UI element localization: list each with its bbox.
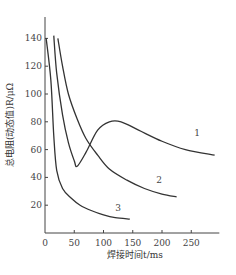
x-tick-label: 100 [95,238,112,248]
x-tick-label: 150 [124,238,141,248]
x-tick-label: 250 [183,238,200,248]
y-tick-label: 120 [25,61,42,71]
y-tick-label: 140 [25,33,42,43]
y-axis-label: 总电阻(动态值)R/μΩ [4,83,15,167]
curve-3 [46,38,130,219]
y-tick-label: 60 [31,145,43,155]
resistance-chart: 05010015020025020406080100120140 123 焊接时… [0,0,236,275]
axis-ticks: 05010015020025020406080100120140 [25,33,200,248]
x-tick-label: 0 [42,238,48,248]
curve-label: 3 [115,203,121,213]
x-tick-label: 200 [153,238,170,248]
y-tick-label: 20 [31,200,43,210]
axes [45,17,219,233]
x-axis-label: 焊接时间t/ms [107,249,163,260]
curve-1 [54,36,215,167]
y-tick-label: 100 [25,89,42,99]
curve-label: 2 [156,175,162,185]
curve-label: 1 [194,128,200,138]
x-tick-label: 50 [69,238,81,248]
y-tick-label: 80 [31,117,43,127]
curve-2 [58,38,177,196]
curve-labels: 123 [115,128,200,213]
curves [46,36,214,219]
y-tick-label: 40 [31,172,43,182]
